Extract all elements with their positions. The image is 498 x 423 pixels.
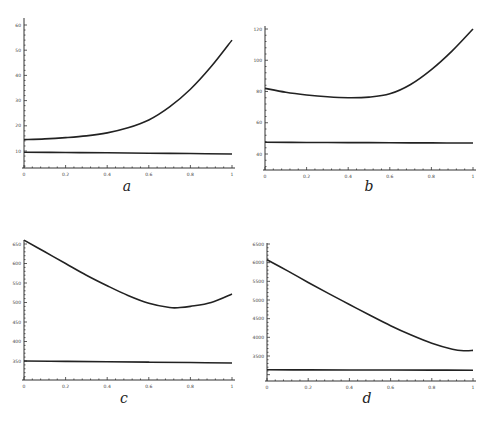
panel-label-d: d xyxy=(363,390,372,406)
panel-label-c: c xyxy=(120,390,128,406)
x-tick-label: 0.6 xyxy=(387,385,394,390)
x-tick-label: 1 xyxy=(231,384,234,389)
curve-upper xyxy=(267,260,473,351)
y-tick-label: 10 xyxy=(15,149,21,154)
x-tick-label: 1 xyxy=(472,174,475,179)
y-tick-label: 60 xyxy=(256,120,262,125)
x-tick-label: 0 xyxy=(264,174,267,179)
y-tick-label: 3500 xyxy=(253,354,265,359)
x-tick-label: 0.4 xyxy=(104,172,111,177)
x-tick-label: 0.2 xyxy=(305,385,312,390)
curve-upper xyxy=(24,240,232,308)
plot-panel-b: 00.20.40.60.81406080100120 xyxy=(253,26,476,179)
curve-upper xyxy=(265,29,473,98)
x-tick-label: 0.4 xyxy=(345,174,352,179)
x-tick-label: 0.4 xyxy=(104,384,111,389)
y-tick-label: 600 xyxy=(12,261,21,266)
x-tick-label: 0.8 xyxy=(428,174,435,179)
x-tick-label: 0.4 xyxy=(346,385,353,390)
y-tick-label: 4000 xyxy=(253,335,265,340)
y-tick-label: 50 xyxy=(15,48,21,53)
y-tick-label: 650 xyxy=(12,242,21,247)
x-tick-label: 0.8 xyxy=(428,385,435,390)
x-tick-label: 0.6 xyxy=(386,174,393,179)
y-tick-label: 5000 xyxy=(253,298,265,303)
x-tick-label: 0.8 xyxy=(187,384,194,389)
plot-panel-c: 00.20.40.60.81350400450500550600650 xyxy=(12,240,235,389)
y-tick-label: 30 xyxy=(15,98,21,103)
x-tick-label: 0 xyxy=(23,384,26,389)
curve-lower xyxy=(24,152,232,154)
x-tick-label: 0.8 xyxy=(187,172,194,177)
y-tick-label: 400 xyxy=(12,339,21,344)
plot-panel-d: 00.20.40.60.8135004000450050005500600065… xyxy=(253,242,476,390)
y-tick-label: 6000 xyxy=(253,260,265,265)
x-tick-label: 0.6 xyxy=(145,172,152,177)
x-tick-label: 1 xyxy=(231,172,234,177)
y-tick-label: 500 xyxy=(12,300,21,305)
plot-panel-a: 00.20.40.60.81102030405060 xyxy=(15,18,235,177)
y-tick-label: 40 xyxy=(15,73,21,78)
curve-lower xyxy=(265,142,473,143)
y-tick-label: 100 xyxy=(253,58,262,63)
x-tick-label: 0.2 xyxy=(62,172,69,177)
y-tick-label: 450 xyxy=(12,320,21,325)
y-tick-label: 350 xyxy=(12,359,21,364)
y-tick-label: 120 xyxy=(253,27,262,32)
panel-label-b: b xyxy=(365,178,374,194)
panel-label-a: a xyxy=(123,178,131,194)
y-tick-label: 4500 xyxy=(253,316,265,321)
y-tick-label: 40 xyxy=(256,152,262,157)
y-tick-label: 80 xyxy=(256,89,262,94)
x-tick-label: 0.2 xyxy=(303,174,310,179)
y-tick-label: 550 xyxy=(12,281,21,286)
x-tick-label: 0 xyxy=(23,172,26,177)
y-tick-label: 20 xyxy=(15,123,21,128)
curve-lower xyxy=(24,361,232,363)
x-tick-label: 0.6 xyxy=(145,384,152,389)
y-tick-label: 5500 xyxy=(253,279,265,284)
x-tick-label: 1 xyxy=(472,385,475,390)
x-tick-label: 0.2 xyxy=(62,384,69,389)
x-tick-label: 0 xyxy=(266,385,269,390)
curve-upper xyxy=(24,40,232,140)
y-tick-label: 6500 xyxy=(253,242,265,247)
y-tick-label: 60 xyxy=(15,23,21,28)
figure-four-panel-plots: 00.20.40.60.81102030405060 00.20.40.60.8… xyxy=(0,0,498,423)
